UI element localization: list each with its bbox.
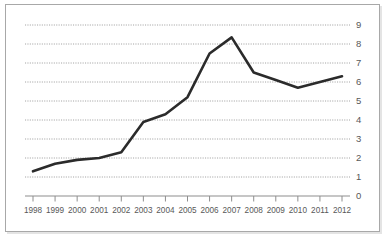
x-tick-label-1998: 1998 xyxy=(24,206,43,215)
x-tick-label-1999: 1999 xyxy=(46,206,65,215)
x-axis-tick-labels: 1998199920002001200220032004200520062007… xyxy=(24,206,352,215)
y-tick-label-6: 6 xyxy=(356,76,361,87)
x-tick-label-2005: 2005 xyxy=(178,206,197,215)
y-tick-label-4: 4 xyxy=(356,114,361,125)
series-line-series-1 xyxy=(33,37,342,171)
data-series-group xyxy=(33,37,342,171)
y-tick-label-8: 8 xyxy=(356,38,361,49)
line-chart-plot: 0123456789 19981999200020012002200320042… xyxy=(0,0,391,243)
x-tick-label-2000: 2000 xyxy=(68,206,87,215)
y-axis-tick-labels: 0123456789 xyxy=(356,19,361,201)
x-tick-label-2003: 2003 xyxy=(134,206,153,215)
x-tick-label-2002: 2002 xyxy=(112,206,131,215)
x-tick-label-2008: 2008 xyxy=(245,206,264,215)
y-tick-label-3: 3 xyxy=(356,133,361,144)
y-tick-label-5: 5 xyxy=(356,95,361,106)
gridlines-group xyxy=(25,25,350,177)
x-tick-label-2010: 2010 xyxy=(289,206,308,215)
y-tick-label-7: 7 xyxy=(356,57,361,68)
x-tick-label-2009: 2009 xyxy=(267,206,286,215)
x-tick-label-2004: 2004 xyxy=(156,206,175,215)
x-tick-label-2006: 2006 xyxy=(200,206,219,215)
x-axis-group xyxy=(25,196,350,202)
chart-container: 0123456789 19981999200020012002200320042… xyxy=(0,0,391,243)
y-tick-label-9: 9 xyxy=(356,19,361,30)
y-tick-label-0: 0 xyxy=(356,190,361,201)
x-tick-label-2007: 2007 xyxy=(223,206,242,215)
x-tick-label-2012: 2012 xyxy=(333,206,352,215)
x-tick-label-2011: 2011 xyxy=(311,206,329,215)
x-tick-label-2001: 2001 xyxy=(90,206,109,215)
y-tick-label-1: 1 xyxy=(356,171,361,182)
y-tick-label-2: 2 xyxy=(356,152,361,163)
